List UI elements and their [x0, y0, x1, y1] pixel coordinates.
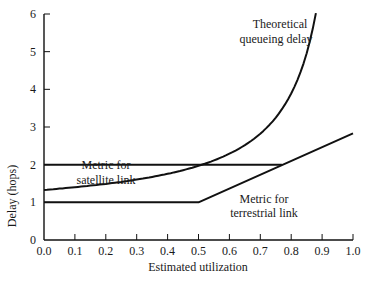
y-tick-label: 0: [30, 233, 36, 247]
satellite-annotation-line2: satellite link: [77, 173, 136, 187]
queueing-annotation-line2: queueing delay: [240, 32, 313, 46]
y-tick-label: 2: [30, 158, 36, 172]
queueing-annotation-line1: Theoretical: [253, 17, 308, 31]
x-axis-title: Estimated utilization: [148, 260, 248, 274]
x-tick-label: 0.4: [160, 244, 175, 258]
y-tick-label: 3: [30, 120, 36, 134]
y-tick-label: 5: [30, 45, 36, 59]
x-tick-label: 0.0: [37, 244, 52, 258]
y-tick-label: 6: [30, 7, 36, 21]
annotations: Theoretical queueing delay Metric for sa…: [77, 17, 313, 220]
x-tick-label: 0.1: [67, 244, 82, 258]
y-axis-title: Delay (hops): [5, 165, 19, 227]
x-tick-label: 0.8: [284, 244, 299, 258]
y-tick-label: 1: [30, 195, 36, 209]
x-tick-label: 0.3: [129, 244, 144, 258]
x-tick-label: 0.6: [222, 244, 237, 258]
x-tick-label: 0.7: [253, 244, 268, 258]
terrestrial-annotation-line2: terrestrial link: [230, 206, 298, 220]
satellite-annotation-line1: Metric for: [82, 158, 131, 172]
y-tick-label: 4: [30, 82, 36, 96]
x-tick-label: 1.0: [346, 244, 361, 258]
x-tick-label: 0.9: [315, 244, 330, 258]
delay-vs-utilization-chart: 0.00.10.20.30.40.50.60.70.80.91.00123456…: [0, 0, 370, 281]
terrestrial-annotation-line1: Metric for: [240, 192, 289, 206]
x-tick-label: 0.2: [98, 244, 113, 258]
x-tick-label: 0.5: [191, 244, 206, 258]
